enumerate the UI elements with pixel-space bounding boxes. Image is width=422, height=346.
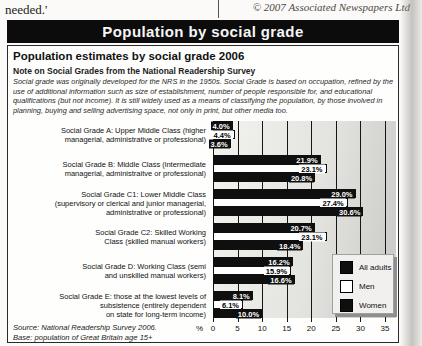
axis-tick-label-15: 15: [282, 324, 291, 333]
bar-value-label: 8.1%: [231, 291, 252, 300]
legend-swatch: [340, 280, 353, 293]
bar-value-label: 4.0%: [211, 121, 232, 130]
axis-tick-label-35: 35: [381, 324, 390, 333]
axis-percent-label: %: [196, 324, 203, 333]
bar-value-label: 16.6%: [268, 275, 293, 284]
bar-men: 27.4%: [213, 198, 348, 207]
bar-men: 23.1%: [213, 164, 327, 173]
category-label: Social Grade B: Middle Class (intermedia…: [8, 160, 213, 178]
legend-label: Women: [359, 301, 386, 310]
bar-men: 4.4%: [213, 130, 235, 139]
bar-all-adults: 21.9%: [213, 155, 321, 164]
axis-tick-label-10: 10: [258, 324, 267, 333]
bar-women: 20.8%: [213, 173, 315, 182]
bar-chart: Social Grade A: Upper Middle Class (high…: [8, 121, 398, 331]
axis-tick-label-25: 25: [331, 324, 340, 333]
banner-title: Population by social grade: [102, 23, 303, 40]
bar-men: 6.1%: [213, 300, 243, 309]
page-edge-shadow: [400, 0, 422, 346]
bar-value-label: 21.9%: [294, 155, 319, 164]
legend-label: Men: [359, 282, 375, 291]
category-label: Social Grade C2: Skilled Working Class (…: [8, 228, 213, 246]
bar-all-adults: 29.0%: [213, 189, 356, 198]
bar-women: 10.0%: [213, 309, 262, 318]
figure-title: Population estimates by social grade 200…: [13, 50, 244, 62]
bar-value-label: 30.6%: [337, 207, 362, 216]
chart-row-2: Social Grade C1: Lower Middle Class (sup…: [8, 189, 398, 216]
bar-value-label: 27.4%: [320, 198, 345, 207]
bar-women: 16.6%: [213, 275, 295, 284]
bar-women: 18.4%: [213, 241, 303, 250]
legend-item-women: Women: [340, 299, 393, 312]
top-left-text: needed.': [5, 2, 47, 18]
category-label: Social Grade E: those at the lowest leve…: [8, 291, 213, 318]
bar-value-label: 20.7%: [288, 223, 313, 232]
source-text: Source: National Readership Survey 2006.: [13, 323, 157, 333]
copyright-text: © 2007 Associated Newspapers Ltd: [190, 1, 410, 13]
bar-all-adults: 4.0%: [213, 121, 233, 130]
bar-all-adults: 16.2%: [213, 257, 293, 266]
legend-label: All adults: [359, 263, 391, 272]
chart-figure: Population estimates by social grade 200…: [7, 45, 399, 343]
bar-value-label: 6.1%: [220, 300, 241, 309]
chart-row-3: Social Grade C2: Skilled Working Class (…: [8, 223, 398, 250]
bar-value-label: 20.8%: [289, 173, 314, 182]
legend: All adultsMenWomen: [332, 254, 394, 314]
bar-all-adults: 8.1%: [213, 291, 253, 300]
title-banner: Population by social grade: [7, 20, 399, 43]
category-label: Social Grade A: Upper Middle Class (high…: [8, 126, 213, 144]
note-heading: Note on Social Grades from the National …: [13, 66, 255, 76]
bar-all-adults: 20.7%: [213, 223, 315, 232]
bar-women: 3.6%: [213, 139, 231, 148]
legend-swatch: [340, 261, 353, 274]
bar-value-label: 16.2%: [266, 257, 291, 266]
axis-tick-label-20: 20: [307, 324, 316, 333]
category-label: Social Grade D: Working Class (semi and …: [8, 262, 213, 280]
bar-value-label: 18.4%: [277, 241, 302, 250]
legend-item-men: Men: [340, 280, 393, 293]
axis-tick-label-0: 0: [211, 324, 215, 333]
legend-item-all-adults: All adults: [340, 261, 393, 274]
bar-value-label: 23.1%: [299, 164, 324, 173]
bar-value-label: 15.9%: [264, 266, 289, 275]
axis-tick-label-30: 30: [356, 324, 365, 333]
chart-row-0: Social Grade A: Upper Middle Class (high…: [8, 121, 398, 148]
bar-value-label: 3.6%: [209, 139, 230, 148]
base-text: Base: population of Great Britain age 15…: [13, 333, 157, 343]
bar-value-label: 10.0%: [236, 309, 261, 318]
bar-value-label: 29.0%: [329, 189, 354, 198]
axis-tick-label-5: 5: [235, 324, 239, 333]
bar-men: 15.9%: [213, 266, 291, 275]
bar-men: 23.1%: [213, 232, 327, 241]
bar-women: 30.6%: [213, 207, 363, 216]
bar-value-label: 23.1%: [299, 232, 324, 241]
note-paragraph: Social grade was originally developed fo…: [13, 77, 397, 116]
legend-swatch: [340, 299, 353, 312]
category-label: Social Grade C1: Lower Middle Class (sup…: [8, 189, 213, 216]
bar-value-label: 4.4%: [211, 130, 232, 139]
source-note: Source: National Readership Survey 2006.…: [13, 323, 157, 344]
chart-row-1: Social Grade B: Middle Class (intermedia…: [8, 155, 398, 182]
